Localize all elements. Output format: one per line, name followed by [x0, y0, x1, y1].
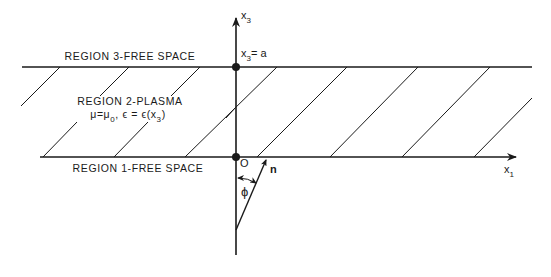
epsilon-sub: 3 — [157, 115, 162, 124]
origin-point — [232, 153, 240, 161]
diagram-graphics — [0, 0, 551, 277]
top-boundary-label: x3= a — [241, 47, 267, 59]
x1-axis-label: x1 — [504, 163, 514, 175]
phi-angle-label: ϕ — [241, 184, 248, 199]
phi-angle-arc — [238, 178, 256, 183]
top-boundary-point — [232, 63, 240, 71]
x3-axis-label: x3 — [241, 9, 251, 21]
epsilon-text: , ϵ = ϵ(x — [115, 108, 156, 120]
x1-label-sub: 1 — [510, 170, 514, 179]
x3-label-sub: 3 — [247, 16, 251, 25]
top-boundary-label-sub: 3 — [247, 54, 251, 63]
region-3-label: REGION 3-FREE SPACE — [65, 50, 196, 62]
epsilon-close: ) — [162, 108, 166, 120]
mu-sub: 0 — [110, 115, 115, 124]
n-vector-label: n — [270, 163, 277, 175]
origin-label: O — [240, 157, 249, 169]
x1-label-base: x — [504, 163, 510, 175]
mu-text: μ=μ — [90, 108, 110, 120]
diagram-canvas: x3 x1 x3= a O n ϕ REGION 3-FREE SPACE RE… — [0, 0, 551, 277]
region-2-label: REGION 2-PLASMA — [77, 95, 182, 107]
x3-label-base: x — [241, 9, 247, 21]
region-2-properties: μ=μ0, ϵ = ϵ(x3) — [90, 108, 166, 120]
region-1-label: REGION 1-FREE SPACE — [73, 162, 204, 174]
top-boundary-label-base: x — [241, 47, 247, 59]
top-boundary-label-value: = a — [251, 47, 267, 59]
